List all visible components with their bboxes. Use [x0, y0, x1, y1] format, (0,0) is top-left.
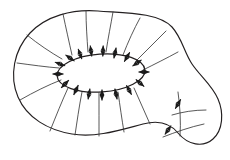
vector-field-diagram [0, 0, 230, 160]
region-group [14, 11, 222, 145]
figure-container [0, 0, 230, 160]
edge-vector-arrow [165, 125, 171, 134]
blob-region-outline [14, 11, 222, 145]
